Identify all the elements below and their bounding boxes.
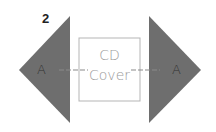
cd-cover-line1: CD — [79, 45, 140, 65]
right-flap-label: A — [172, 62, 181, 77]
step-number: 2 — [42, 11, 49, 26]
cd-cover-line2: Cover — [79, 65, 140, 85]
left-flap-label: A — [37, 62, 46, 77]
cd-cover-label: CD Cover — [79, 45, 140, 85]
